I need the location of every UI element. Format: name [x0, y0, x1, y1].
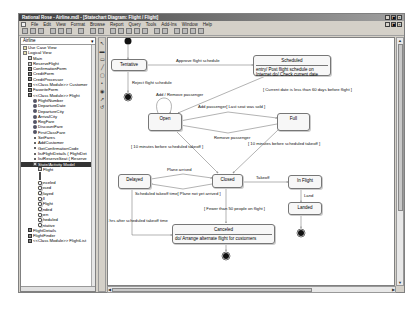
menu-view[interactable]: View: [56, 22, 66, 27]
menu-report[interactable]: Report: [110, 22, 124, 27]
new-icon[interactable]: [22, 28, 28, 34]
transition-label[interactable]: [ 10 minutes before scheduled takeoff ]: [248, 141, 320, 146]
op-icon: [34, 147, 36, 149]
cut-icon[interactable]: [50, 28, 56, 34]
standard-toolbar: [19, 27, 404, 36]
browse-parent-icon[interactable]: [154, 28, 160, 34]
state-icon[interactable]: ▢: [100, 72, 105, 77]
menu-format[interactable]: Format: [71, 22, 85, 27]
state-name: Open: [149, 114, 181, 121]
menu-tools[interactable]: Tools: [146, 22, 157, 27]
state-in-flight[interactable]: In Flight: [288, 175, 322, 189]
vertical-scroll-thumb[interactable]: [398, 44, 403, 211]
state-tentative[interactable]: Tentative: [111, 59, 147, 71]
maximize-button[interactable]: ▣: [391, 15, 396, 20]
folder-icon: [23, 51, 27, 55]
transition-label[interactable]: Reject flight schedule: [132, 80, 172, 85]
state-transition-icon[interactable]: ↗: [100, 96, 105, 101]
state-closed[interactable]: Closed: [212, 174, 243, 188]
state-landed[interactable]: Landed: [288, 202, 322, 215]
transition-label[interactable]: Add / Remove passenger: [156, 92, 203, 97]
browse-component-diagram-icon[interactable]: [126, 28, 132, 34]
menu-help[interactable]: Help: [203, 22, 212, 27]
state-actions: entry/ Post flight schedule on Internet …: [256, 65, 328, 77]
text-box-icon[interactable]: ▬: [100, 48, 105, 53]
scroll-left-icon[interactable]: ◀: [108, 287, 111, 292]
diag-icon: [38, 167, 42, 171]
zoom-out-icon[interactable]: [182, 28, 188, 34]
browser-combo[interactable]: Airline: [21, 38, 95, 45]
browse-class-diagram-icon[interactable]: [110, 28, 116, 34]
transition-label[interactable]: Land: [304, 193, 313, 198]
close-button[interactable]: ×: [397, 15, 402, 20]
toolbar-separator: [106, 28, 108, 34]
browse-statechart-icon[interactable]: [134, 28, 140, 34]
title-bar: Rational Rose - Airline.mdl - [Statechar…: [19, 14, 404, 21]
print-icon[interactable]: [78, 28, 84, 34]
transition-to-self-icon[interactable]: ↺: [100, 104, 105, 109]
toolbar-separator: [46, 28, 48, 34]
tree-item[interactable]: <<Class Module>> FlightList: [21, 238, 95, 243]
cls-icon: [28, 239, 32, 243]
transition-label[interactable]: Approve flight schedule: [176, 58, 220, 63]
state-icon: [38, 202, 42, 206]
note-icon[interactable]: ▭: [100, 56, 105, 61]
state-icon: [38, 197, 42, 201]
statechart-canvas[interactable]: Tentative Scheduled entry/ Post flight s…: [107, 37, 395, 286]
undo-fit-icon[interactable]: [198, 28, 204, 34]
zoom-in-icon[interactable]: [174, 28, 180, 34]
selection-arrow-icon[interactable]: ↖: [100, 40, 105, 45]
state-canceled[interactable]: Canceled do/ Arrange alternate flight fo…: [172, 224, 275, 244]
fit-in-window-icon[interactable]: [190, 28, 196, 34]
minimize-button[interactable]: _: [385, 15, 390, 20]
paste-icon[interactable]: [66, 28, 72, 34]
browse-previous-icon[interactable]: [162, 28, 168, 34]
transition-label[interactable]: 4 hrs after scheduled takeoff time: [107, 218, 168, 223]
toolbar-separator: [86, 28, 88, 34]
state-delayed[interactable]: Delayed: [118, 174, 151, 189]
save-icon[interactable]: [38, 28, 44, 34]
diag-icon: [28, 62, 32, 66]
context-help-icon[interactable]: [90, 28, 96, 34]
transition-label[interactable]: Scheduled takeoff time[ Plane not yet ar…: [135, 191, 221, 196]
transition-label[interactable]: Plane arrived: [167, 167, 192, 172]
scroll-up-icon[interactable]: ▲: [398, 38, 402, 43]
menu-query[interactable]: Query: [129, 22, 141, 27]
transition-label[interactable]: Takeoff: [256, 175, 269, 180]
canvas-horizontal-scrollbar[interactable]: ◀ ▶: [107, 286, 396, 293]
cls-icon: [28, 88, 32, 92]
menu-edit[interactable]: Edit: [43, 22, 51, 27]
document-icon[interactable]: [21, 22, 26, 27]
state-scheduled[interactable]: Scheduled entry/ Post flight schedule on…: [253, 55, 331, 76]
horizontal-scroll-thumb[interactable]: [112, 288, 312, 292]
start-state-icon[interactable]: •: [100, 80, 105, 85]
state-full[interactable]: Full: [277, 113, 310, 131]
transition-label[interactable]: [ Current date is less than 60 days befo…: [263, 87, 352, 92]
transition-label[interactable]: [ 10 minutes before scheduled takeoff ]: [131, 144, 203, 149]
scroll-down-icon[interactable]: ▼: [398, 280, 402, 285]
browse-interaction-diagram-icon[interactable]: [118, 28, 124, 34]
attr-icon: [33, 109, 37, 113]
anchor-note-icon[interactable]: ╱: [100, 64, 105, 69]
menu-add-ins[interactable]: Add-Ins: [161, 22, 177, 27]
browser-vertical-scrollbar[interactable]: [91, 45, 95, 288]
transition-label[interactable]: Remove passenger: [214, 135, 250, 140]
end-state-icon[interactable]: ◉: [100, 88, 105, 93]
menu-file[interactable]: File: [31, 22, 38, 27]
view-doc-icon[interactable]: [98, 28, 104, 34]
state-open[interactable]: Open: [148, 113, 182, 131]
open-icon[interactable]: [30, 28, 36, 34]
folder-icon: [23, 46, 27, 50]
attr-icon: [33, 99, 37, 103]
browser-horizontal-scrollbar[interactable]: [21, 286, 95, 291]
canvas-vertical-scrollbar[interactable]: ▲ ▼: [396, 37, 404, 286]
transition-label[interactable]: Add passenger[ Last seat was sold ]: [198, 104, 265, 109]
state-name: Full: [278, 114, 309, 121]
menu-window[interactable]: Window: [182, 22, 198, 27]
menu-browse[interactable]: Browse: [90, 22, 105, 27]
browse-deployment-icon[interactable]: [142, 28, 148, 34]
copy-icon[interactable]: [58, 28, 64, 34]
transition-label[interactable]: [ Fewer than 50 people on flight ]: [204, 206, 265, 211]
state-name: Closed: [213, 175, 242, 182]
scroll-right-icon[interactable]: ▶: [392, 287, 395, 292]
